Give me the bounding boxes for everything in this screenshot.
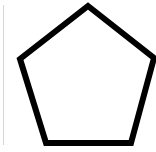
pentagon-shape [20, 6, 154, 143]
diagram-canvas [0, 0, 156, 152]
